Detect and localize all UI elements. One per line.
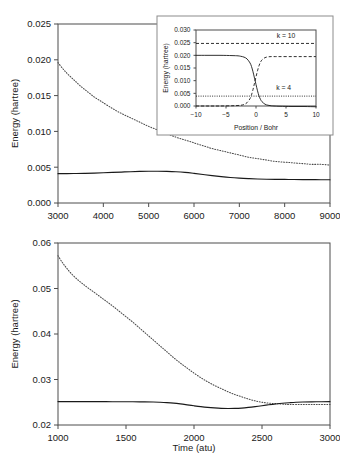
inset-panel-x-tick-label: 5: [284, 111, 288, 118]
top-panel-x-tick-label: 5000: [138, 210, 159, 221]
bottom-panel-x-tick-label: 3000: [319, 432, 340, 443]
top-panel-y-tick-label: 0.000: [27, 197, 51, 208]
top-panel-y-axis-title: Energy (hartree): [9, 79, 20, 148]
inset-panel-y-tick-label: 0.005: [174, 90, 191, 97]
inset-panel-chart: 0.0000.0050.0100.0150.0200.0250.030−10−5…: [157, 16, 333, 135]
bottom-panel-x-tick-label: 2500: [251, 432, 272, 443]
top-panel-x-tick-label: 3000: [47, 210, 68, 221]
bottom-panel-y-tick-label: 0.03: [33, 374, 52, 385]
inset-panel-y-tick-label: 0.010: [174, 77, 191, 84]
inset-panel-y-axis-title: Energy (hartree): [162, 43, 170, 93]
top-panel-y-tick-label: 0.020: [27, 54, 51, 65]
bottom-panel-x-axis-title: Time (atu): [173, 442, 216, 453]
inset-panel-y-tick-label: 0.015: [174, 64, 191, 71]
top-panel-y-tick-label: 0.005: [27, 162, 51, 173]
top-panel-y-tick-label: 0.015: [27, 90, 51, 101]
bottom-panel-y-axis-title: Energy (hartree): [9, 299, 20, 368]
inset-panel-x-tick-label: −10: [190, 111, 201, 118]
inset-panel-x-axis-title: Position / Bohr: [234, 124, 279, 131]
figure-container: 0.0000.0050.0100.0150.0200.0253000400050…: [0, 0, 340, 476]
inset-panel-y-tick-label: 0.020: [174, 52, 191, 59]
inset-panel-y-tick-label: 0.000: [174, 102, 191, 109]
bottom-panel-y-tick-label: 0.06: [33, 237, 52, 248]
bottom-panel-x-tick-label: 1000: [47, 432, 68, 443]
top-panel-x-tick-label: 6000: [183, 210, 204, 221]
top-panel-y-tick-label: 0.025: [27, 18, 51, 29]
top-panel-y-tick-label: 0.010: [27, 126, 51, 137]
top-panel-x-tick-label: 4000: [93, 210, 114, 221]
bottom-panel-y-tick-label: 0.04: [33, 328, 52, 339]
bottom-panel-x-tick-label: 1500: [115, 432, 136, 443]
inset-panel-annotation: k = 4: [276, 84, 291, 91]
inset-panel-x-tick-label: 10: [312, 111, 320, 118]
top-panel-x-tick-label: 7000: [229, 210, 250, 221]
inset-outer-frame: [157, 16, 333, 135]
figure-svg: 0.0000.0050.0100.0150.0200.0253000400050…: [0, 0, 340, 476]
inset-panel-annotation: k = 10: [277, 32, 296, 39]
top-panel-x-tick-label: 8000: [274, 210, 295, 221]
bottom-panel-y-tick-label: 0.05: [33, 283, 52, 294]
inset-panel-x-tick-label: 0: [254, 111, 258, 118]
inset-panel-y-tick-label: 0.025: [174, 39, 191, 46]
bottom-panel-x-tick-label: 2000: [183, 432, 204, 443]
inset-panel-y-tick-label: 0.030: [174, 26, 191, 33]
top-panel-x-tick-label: 9000: [319, 210, 340, 221]
bottom-panel-y-tick-label: 0.02: [33, 419, 52, 430]
inset-panel-x-tick-label: −5: [222, 111, 230, 118]
